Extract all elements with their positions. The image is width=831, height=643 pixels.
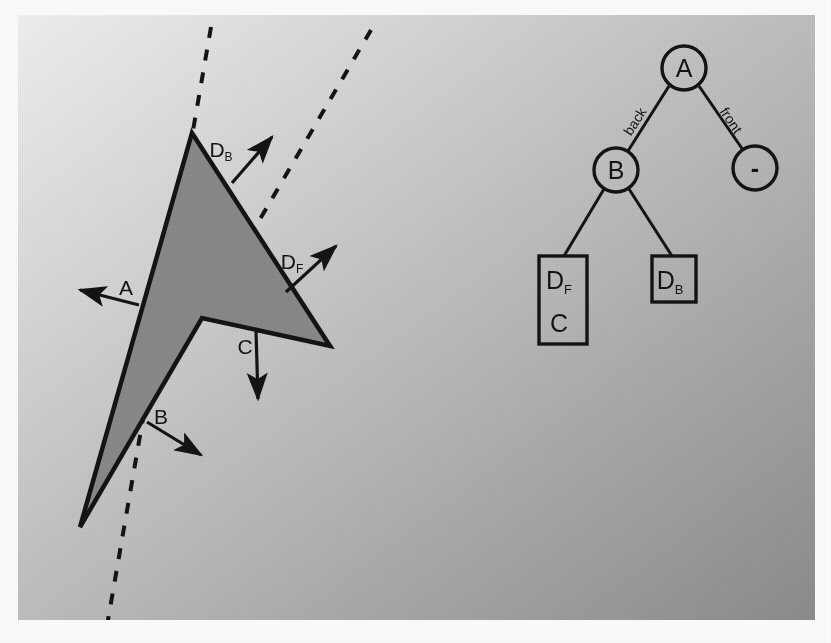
tree-node-a-label: A [676,54,693,82]
tree-node-b-label: B [608,156,625,184]
tree-node-empty-label: - [751,154,759,182]
tree-leaf-df-c-bottom-label: C [550,309,568,337]
normal-arrow-c [256,331,258,399]
figure-root: A B C DB DF [0,0,831,643]
normal-label-a: A [119,276,133,299]
normal-label-b: B [154,405,168,428]
figure-canvas: A B C DB DF [0,0,831,643]
normal-label-c: C [237,335,252,358]
